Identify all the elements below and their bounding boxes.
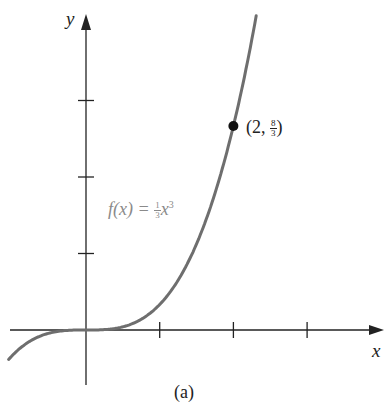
x-axis-label: x [372,340,380,362]
function-label-prefix: f(x) = [108,199,154,219]
function-curve [9,16,257,360]
highlighted-point [228,121,238,131]
cubic-function-plot [0,0,389,412]
figure-caption: (a) [174,382,194,403]
function-label: f(x) = 13x3 [108,199,174,220]
y-axis-arrow-icon [81,14,91,30]
x-axis-arrow-icon [369,325,384,335]
point-label: (2, 83) [246,117,283,138]
y-axis-label: y [66,8,74,30]
